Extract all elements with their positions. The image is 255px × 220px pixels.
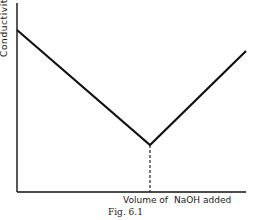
conductivity-curve xyxy=(17,30,246,145)
x-axis-label: Volume ofNaOH added xyxy=(123,195,231,205)
y-axis-label: Conductivity xyxy=(0,0,9,65)
figure-caption: Fig. 6.1 xyxy=(108,207,143,217)
conductivity-chart xyxy=(0,0,255,220)
x-axis-label-part1: Volume of xyxy=(123,195,168,205)
x-axis-label-part2: NaOH added xyxy=(174,195,231,205)
